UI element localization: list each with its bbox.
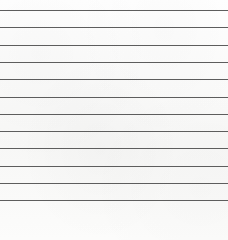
grid-line-horizontal (0, 131, 228, 132)
grid-line-horizontal (0, 62, 228, 63)
grid-line-horizontal (0, 114, 228, 115)
go-board-diagram (0, 0, 228, 240)
grid-line-horizontal (0, 79, 228, 80)
grid-line-horizontal (0, 200, 228, 201)
grid-line-horizontal (0, 10, 228, 11)
grid-line-horizontal (0, 183, 228, 184)
grid-line-horizontal (0, 97, 228, 98)
grid-line-horizontal (0, 27, 228, 28)
grid-line-horizontal (0, 166, 228, 167)
grid-line-horizontal (0, 148, 228, 149)
grid-line-horizontal (0, 45, 228, 46)
